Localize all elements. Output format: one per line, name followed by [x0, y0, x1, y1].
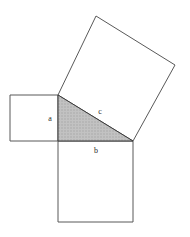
label-a: a	[48, 114, 52, 123]
label-b: b	[94, 146, 98, 155]
pythagorean-diagram-canvas: a b c	[0, 0, 190, 237]
label-c: c	[98, 107, 102, 116]
pythagorean-diagram: a b c	[0, 0, 190, 237]
